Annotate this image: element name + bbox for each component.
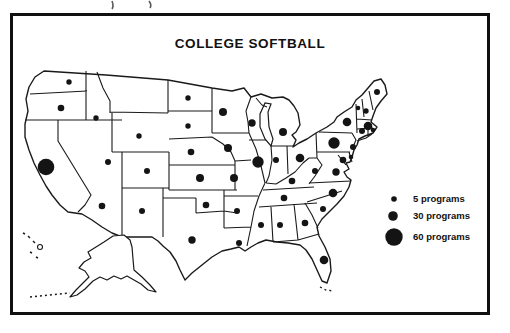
symbol-dot-NY: [343, 118, 352, 127]
symbol-dot-KY: [289, 178, 296, 185]
symbol-dot-AL: [277, 222, 283, 228]
figure-page: COLLEGE SOFTBALL 5 programs 30 programs …: [0, 0, 510, 333]
symbol-dot-WV: [312, 168, 318, 174]
legend-circle-60: [385, 228, 402, 245]
symbol-dot-TX: [188, 236, 195, 243]
symbol-dot-DE: [349, 155, 354, 160]
symbol-dot-MS: [258, 222, 264, 228]
symbol-dot-AR: [234, 208, 240, 214]
legend-circle-5: [391, 196, 397, 202]
legend-circle-30: [388, 211, 398, 221]
symbol-dot-SD: [185, 123, 190, 128]
legend-circles: [385, 196, 402, 246]
symbol-dot-PA: [328, 137, 339, 148]
symbol-dot-GA: [302, 220, 309, 227]
symbol-dot-MI: [279, 128, 287, 136]
symbol-dot-NV: [105, 159, 111, 165]
symbol-dot-NM: [139, 208, 145, 214]
symbol-dot-TN: [281, 195, 288, 202]
symbol-dot-CT: [359, 128, 365, 134]
symbol-dot-RI: [371, 128, 376, 133]
symbol-dot-IA: [224, 144, 232, 152]
symbol-dot-OK: [203, 202, 210, 209]
aleutian-islands: [30, 293, 70, 297]
symbol-dot-ME: [374, 89, 380, 95]
symbol-dot-NE: [188, 149, 195, 156]
symbol-dot-VT: [356, 106, 361, 111]
symbol-dot-OR: [58, 105, 65, 112]
legend-label-30-programs: 30 programs: [413, 210, 470, 221]
symbol-dot-MN: [219, 108, 227, 116]
symbol-dot-WY: [136, 133, 141, 138]
symbol-dot-SC: [320, 206, 326, 212]
hawaii-islands: [23, 233, 43, 258]
symbol-dot-WA: [66, 79, 71, 84]
symbol-dot-LA: [236, 240, 242, 246]
symbol-dot-NH: [363, 108, 368, 113]
legend-label-5-programs: 5 programs: [413, 193, 465, 204]
symbol-dot-IN: [273, 157, 279, 163]
symbol-dot-MD: [340, 157, 347, 164]
symbol-dot-CO: [144, 168, 150, 174]
us-outline: [25, 71, 387, 283]
symbol-dot-FL: [320, 256, 329, 265]
symbol-dot-ID: [93, 115, 98, 120]
hawaii-specks: [23, 233, 38, 258]
symbol-dot-OH: [296, 154, 305, 163]
symbol-dot-NC: [329, 189, 338, 198]
symbol-dot-AZ: [99, 203, 106, 210]
symbol-dot-WI: [248, 119, 255, 126]
legend-label-60-programs: 60 programs: [413, 231, 470, 242]
symbol-dot-MO: [230, 174, 238, 182]
hawaii-big-island: [38, 245, 43, 250]
symbol-dot-NJ: [350, 144, 356, 150]
symbol-dot-CA: [38, 159, 55, 176]
us-map-svg: [0, 0, 510, 333]
symbol-dot-VA: [332, 168, 339, 175]
symbol-dot-ND: [185, 95, 190, 100]
symbol-dot-KS: [196, 174, 204, 182]
symbol-dot-IL: [252, 156, 263, 167]
alaska-outline: [70, 235, 156, 297]
florida-keys: [320, 287, 333, 291]
